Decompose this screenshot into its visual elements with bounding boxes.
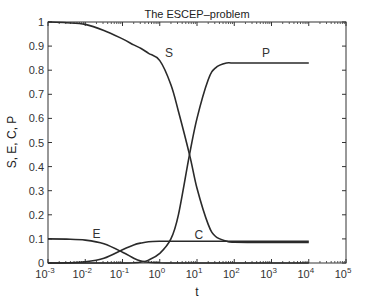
escep-chart: The ESCEP–problem 00.10.20.30.40.50.60.7… — [0, 0, 368, 307]
curve-label-s: S — [165, 46, 173, 60]
x-tick-label: 104 — [297, 266, 314, 280]
x-tick-label: 10-1 — [110, 266, 130, 280]
y-tick-label: 0.5 — [29, 137, 44, 149]
y-tick-label: 0.1 — [29, 233, 44, 245]
x-tick-label: 100 — [148, 266, 165, 280]
curve-c — [48, 241, 309, 263]
x-tick-label: 10-2 — [73, 266, 93, 280]
y-tick-label: 1 — [38, 16, 44, 28]
x-tick-label: 105 — [335, 266, 352, 280]
chart-title: The ESCEP–problem — [144, 8, 249, 20]
x-tick-label: 10-3 — [35, 266, 55, 280]
curve-labels: SECP — [92, 46, 270, 242]
x-tick-label: 103 — [260, 266, 277, 280]
x-tick-label: 101 — [186, 266, 203, 280]
y-tick-label: 0.8 — [29, 64, 44, 76]
y-tick-label: 0.6 — [29, 112, 44, 124]
y-tick-label: 0.9 — [29, 40, 44, 52]
x-tick-label: 102 — [223, 266, 240, 280]
curve-label-e: E — [92, 227, 100, 241]
y-tick-label: 0.4 — [29, 161, 44, 173]
curve-p — [48, 63, 309, 263]
y-tick-label: 0.3 — [29, 185, 44, 197]
y-axis-label: S, E, C, P — [5, 116, 19, 169]
curve-label-c: C — [195, 228, 204, 242]
y-tick-label: 0.2 — [29, 209, 44, 221]
curve-label-p: P — [262, 46, 270, 60]
y-tick-label: 0.7 — [29, 88, 44, 100]
x-axis-label: t — [195, 285, 199, 299]
